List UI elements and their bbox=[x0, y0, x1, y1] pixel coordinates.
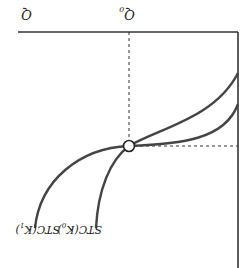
stc-k0-label: STC(K0) bbox=[57, 221, 102, 236]
cost-curves-diagram: Q Q0 STC(K0) STC(K1) bbox=[0, 0, 250, 268]
tangency-point-marker bbox=[124, 141, 135, 152]
x-axis-label: Q bbox=[21, 7, 32, 22]
stc-k1-curve bbox=[35, 104, 238, 228]
q0-label: Q0 bbox=[119, 5, 135, 22]
stc-k0-curve bbox=[96, 73, 238, 228]
stc-k1-label: STC(K1) bbox=[15, 221, 60, 236]
